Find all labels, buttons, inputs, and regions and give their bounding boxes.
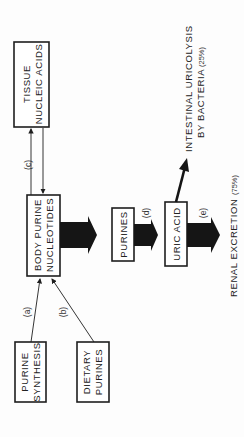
dietary-line1: DIETARY [81,350,92,395]
purine-metabolism-diagram: TISSUE NUCLEIC ACIDS (c) BODY PURINE NUC… [0,0,244,437]
edge-c: (c) [23,128,43,195]
renal-line1: RENAL EXCRETION [228,199,239,297]
node-purines: PURINES [112,208,134,261]
edge-e: (e) [187,208,220,253]
edge-label-c: (c) [23,160,33,170]
edge-body-to-purines [60,216,97,254]
purines-label: PURINES [118,211,129,257]
intestinal-line2: BY BACTERIA [195,69,206,138]
output-renal-excretion: RENAL EXCRETION (75%) [228,174,239,297]
dietary-line2: PURINES [93,349,104,395]
synthesis-line1: PURINE [19,352,30,392]
edge-a: (a) [22,279,40,342]
intestinal-line1: INTESTINAL URICOLYSIS [183,25,194,152]
renal-percent: (75%) [230,174,239,195]
node-dietary-purines: DIETARY PURINES [77,342,109,402]
output-intestinal-uricolysis: INTESTINAL URICOLYSIS BY BACTERIA (25%) [183,25,206,152]
tissue-line1: TISSUE [21,65,32,103]
node-body-purine-nucleotides: BODY PURINE NUCLEOTIDES [27,195,60,276]
edge-label-d: (d) [141,208,151,219]
node-uric-acid: URIC ACID [165,202,187,266]
body-line2: NUCLEOTIDES [44,198,55,272]
edge-label-e: (e) [198,208,208,219]
edge-intestinal [176,158,189,202]
edge-label-a: (a) [22,307,32,318]
body-line1: BODY PURINE [32,199,43,271]
synthesis-line2: SYNTHESIS [31,342,42,401]
tissue-line2: NUCLEIC ACIDS [33,44,44,125]
edge-label-b: (b) [58,307,68,318]
intestinal-percent: (25%) [197,46,206,67]
edge-b: (b) [52,279,94,342]
node-purine-synthesis: PURINE SYNTHESIS [15,342,46,402]
node-tissue-nucleic-acids: TISSUE NUCLEIC ACIDS [14,42,49,127]
uric-acid-label: URIC ACID [171,207,182,260]
edge-d: (d) [134,208,158,251]
